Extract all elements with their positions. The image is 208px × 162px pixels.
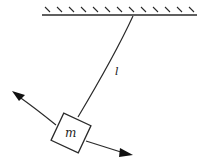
mass-block: m — [51, 113, 91, 153]
pendulum-string — [78, 16, 133, 117]
swing-arrow-right — [86, 141, 133, 157]
pendulum-diagram: l m — [0, 0, 208, 162]
ceiling-support — [42, 7, 197, 15]
mass-label: m — [65, 126, 76, 140]
swing-arrow-left — [12, 91, 56, 125]
ceiling-hatching — [45, 7, 194, 12]
length-label: l — [115, 65, 119, 78]
